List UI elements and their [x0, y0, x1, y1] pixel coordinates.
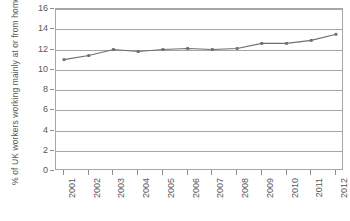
- data-point-2004: [137, 50, 140, 53]
- x-axis-tick-mark-2006: [187, 170, 188, 175]
- y-axis-tick-label-14: 14: [38, 23, 48, 33]
- data-point-2012: [335, 33, 338, 36]
- x-axis-tick-mark-2001: [63, 170, 64, 175]
- x-axis-tick-mark-2009: [261, 170, 262, 175]
- x-axis-tick-mark-2012: [335, 170, 336, 175]
- x-axis-tick-label-2012: 2012: [339, 178, 349, 198]
- x-axis-tick-label-2004: 2004: [141, 178, 151, 198]
- x-axis-tick-label-2006: 2006: [191, 178, 201, 198]
- x-axis-tick-label-2010: 2010: [290, 178, 300, 198]
- y-axis-tick-mark-12: [50, 49, 54, 50]
- data-point-2005: [162, 48, 165, 51]
- y-axis-tick-mark-2: [50, 150, 54, 151]
- y-axis-tick-mark-16: [50, 8, 54, 9]
- y-axis-tick-mark-0: [50, 170, 54, 171]
- x-axis-tick-label-2003: 2003: [116, 178, 126, 198]
- x-axis-tick-mark-2004: [137, 170, 138, 175]
- y-axis-tick-mark-4: [50, 130, 54, 131]
- data-point-2011: [310, 39, 313, 42]
- x-axis-tick-mark-2002: [88, 170, 89, 175]
- y-axis-tick-label-12: 12: [38, 44, 48, 54]
- series-line-home-workers: [56, 9, 344, 171]
- x-axis-tick-label-2002: 2002: [92, 178, 102, 198]
- plot-area: [55, 8, 343, 170]
- data-point-2008: [236, 47, 239, 50]
- x-axis-tick-label-2007: 2007: [215, 178, 225, 198]
- data-point-2009: [260, 42, 263, 45]
- y-axis-tick-label-6: 6: [43, 104, 48, 114]
- y-axis-title-text: % of UK workers working mainly at or fro…: [10, 0, 21, 184]
- data-point-2002: [87, 54, 90, 57]
- x-axis-tick-label-2001: 2001: [67, 178, 77, 198]
- y-axis-tick-mark-10: [50, 69, 54, 70]
- y-axis-tick-labels: 0246810121416: [28, 8, 52, 170]
- y-axis-tick-label-10: 10: [38, 64, 48, 74]
- x-axis-tick-label-2009: 2009: [265, 178, 275, 198]
- x-axis-tick-label-2011: 2011: [314, 178, 324, 197]
- x-axis-tick-mark-2005: [162, 170, 163, 175]
- x-axis-tick-mark-2003: [112, 170, 113, 175]
- x-axis-tick-label-2005: 2005: [166, 178, 176, 198]
- y-axis-title: % of UK workers working mainly at or fro…: [0, 0, 30, 180]
- data-point-2010: [285, 42, 288, 45]
- y-axis-tick-label-2: 2: [43, 145, 48, 155]
- data-point-2003: [112, 48, 115, 51]
- x-axis-tick-mark-2011: [310, 170, 311, 175]
- y-axis-tick-mark-6: [50, 109, 54, 110]
- x-axis-tick-mark-2008: [236, 170, 237, 175]
- data-point-2001: [63, 58, 66, 61]
- x-axis-tick-mark-2010: [286, 170, 287, 175]
- y-axis-tick-mark-8: [50, 89, 54, 90]
- line-chart: % of UK workers working mainly at or fro…: [0, 0, 350, 221]
- y-axis-tick-mark-14: [50, 28, 54, 29]
- y-axis-tick-label-4: 4: [43, 125, 48, 135]
- data-point-2007: [211, 48, 214, 51]
- x-axis-tick-mark-2007: [211, 170, 212, 175]
- y-axis-tick-label-16: 16: [38, 3, 48, 13]
- y-axis-tick-label-0: 0: [43, 165, 48, 175]
- series-polyline: [64, 34, 336, 59]
- series-markers: [63, 33, 338, 61]
- y-axis-tick-label-8: 8: [43, 84, 48, 94]
- x-axis-tick-label-2008: 2008: [240, 178, 250, 198]
- data-point-2006: [186, 47, 189, 50]
